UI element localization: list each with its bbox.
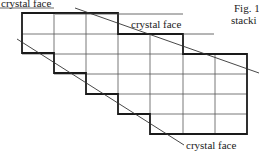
figure-caption-line1: Fig. 1 (234, 2, 259, 14)
lower-crystal-face-line (17, 39, 184, 145)
label-guide-lines (0, 8, 214, 34)
label-crystal-face-top-middle: crystal face (131, 18, 181, 30)
label-crystal-face-bottom-right: crystal face (186, 139, 236, 151)
crystal-stacking-diagram: crystal face crystal face crystal face F… (0, 0, 259, 151)
block-outline (22, 13, 247, 134)
figure-caption-line2: stacki (231, 14, 257, 26)
label-crystal-face-top-left: crystal face (1, 0, 51, 9)
